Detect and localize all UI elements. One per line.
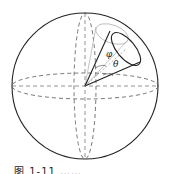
phi-arc: [95, 65, 106, 68]
figure-caption: 图 1-11 ……: [14, 163, 82, 174]
theta-label: θ: [113, 59, 119, 69]
phi-label: φ: [106, 49, 113, 59]
sphere-cone-diagram: φ θ: [0, 0, 171, 174]
